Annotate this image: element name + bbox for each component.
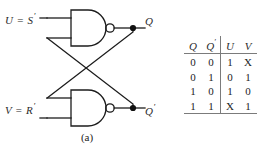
output-label-q: Q — [145, 12, 153, 27]
cell-q: 0 — [184, 54, 202, 70]
top-nand-bubble — [106, 24, 114, 32]
cell-u: 0 — [221, 70, 240, 85]
cell-qnext: 0 — [202, 54, 221, 70]
output-label-qprime-prime: ′ — [153, 102, 155, 112]
table-row: 1 0 1 0 — [184, 84, 257, 99]
output-label-q-prime: Q′ — [145, 102, 155, 117]
column-header-v: V — [239, 36, 257, 54]
qprime-junction-dot — [130, 105, 136, 111]
table-header: Q Q′ U V — [184, 36, 257, 54]
column-header-qnext: Q′ — [202, 36, 221, 54]
input-label-v-prime: ′ — [33, 101, 35, 111]
cell-u: 1 — [221, 84, 240, 99]
column-header-q-text: Q — [189, 40, 197, 52]
column-header-q: Q — [184, 36, 202, 54]
column-header-qnext-text: Q — [206, 40, 214, 52]
cell-v: 1 — [239, 70, 257, 85]
cell-u: 1 — [221, 54, 240, 70]
table-panel: Q Q′ U V 0 0 1 X 0 1 0 1 — [175, 0, 269, 150]
table-row: 0 0 1 X — [184, 54, 257, 70]
table-row: 0 1 0 1 — [184, 70, 257, 85]
bottom-nand-body — [71, 90, 106, 126]
q-junction-dot — [130, 25, 136, 31]
cell-u: X — [221, 99, 240, 114]
circuit-panel: U = S′ V = R′ Q Q′ (a) — [0, 0, 175, 150]
output-label-q-text: Q — [145, 15, 153, 27]
table-header-row: Q Q′ U V — [184, 36, 257, 54]
input-label-v: V = R′ — [5, 101, 35, 116]
input-label-u: U = S′ — [5, 11, 35, 26]
cell-v: 1 — [239, 99, 257, 114]
cell-qnext: 1 — [202, 99, 221, 114]
cell-v: 0 — [239, 84, 257, 99]
caption-a: (a) — [67, 131, 107, 143]
input-label-u-text: U = S — [5, 14, 33, 26]
table-body: 0 0 1 X 0 1 0 1 1 0 1 0 1 — [184, 54, 257, 114]
top-nand-body — [71, 10, 106, 46]
cell-v: X — [239, 54, 257, 70]
table-row: 1 1 X 1 — [184, 99, 257, 114]
cell-q: 1 — [184, 84, 202, 99]
cell-qnext: 0 — [202, 84, 221, 99]
column-header-qnext-prime: ′ — [214, 38, 216, 47]
input-label-u-prime: ′ — [33, 11, 35, 21]
column-header-v-text: V — [245, 40, 252, 52]
input-label-v-text: V = R — [5, 104, 33, 116]
column-header-u: U — [221, 36, 240, 54]
cell-qnext: 1 — [202, 70, 221, 85]
figure-root: U = S′ V = R′ Q Q′ (a) Q Q′ U V — [0, 0, 269, 150]
excitation-table: Q Q′ U V 0 0 1 X 0 1 0 1 — [184, 36, 257, 114]
column-header-u-text: U — [226, 40, 234, 52]
bottom-nand-bubble — [106, 104, 114, 112]
cell-q: 0 — [184, 70, 202, 85]
cell-q: 1 — [184, 99, 202, 114]
